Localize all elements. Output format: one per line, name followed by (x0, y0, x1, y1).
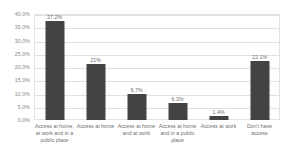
y-tick-label: 10,0% (15, 91, 30, 97)
x-category-label: Access at home and at work (116, 123, 157, 137)
bar-slot: 6,3% (157, 14, 198, 120)
y-tick-label: 0,0% (18, 117, 30, 123)
bar-chart: 0,0%5,0%10,0%15,0%20,0%25,0%30,0%35,0%40… (0, 0, 284, 166)
x-category-label: Access at home, at work and in a public … (34, 123, 75, 145)
x-category-label: Access at work (198, 123, 239, 130)
y-tick-label: 40,0% (15, 11, 30, 17)
bars-layer: 37,2%21%9,7%6,3%1,4%22,1% (34, 14, 280, 120)
bar-value-label: 6,3% (171, 96, 183, 102)
y-tick-label: 30,0% (15, 38, 30, 44)
bar (209, 116, 228, 120)
bar-value-label: 37,2% (47, 14, 62, 20)
x-axis: Access at home, at work and in a public … (34, 123, 280, 166)
bar (45, 21, 64, 120)
y-tick-label: 25,0% (15, 51, 30, 57)
bar-slot: 22,1% (239, 14, 280, 120)
x-category-label: Access at home (75, 123, 116, 130)
bar (168, 103, 187, 120)
bar-value-label: 21% (90, 57, 101, 63)
bar-value-label: 22,1% (252, 54, 267, 60)
y-axis: 0,0%5,0%10,0%15,0%20,0%25,0%30,0%35,0%40… (0, 14, 32, 120)
y-tick-label: 35,0% (15, 24, 30, 30)
x-category-label: Access at home and in a public place (157, 123, 198, 145)
bar-value-label: 9,7% (130, 87, 142, 93)
bar (250, 61, 269, 120)
y-tick-label: 5,0% (18, 104, 30, 110)
bar-slot: 9,7% (116, 14, 157, 120)
bar-slot: 37,2% (34, 14, 75, 120)
bar-value-label: 1,4% (212, 109, 224, 115)
y-tick-label: 20,0% (15, 64, 30, 70)
bar-slot: 21% (75, 14, 116, 120)
bar-slot: 1,4% (198, 14, 239, 120)
x-category-label: Don't have access (239, 123, 280, 137)
bar (127, 94, 146, 120)
bar (86, 64, 105, 120)
y-tick-label: 15,0% (15, 77, 30, 83)
